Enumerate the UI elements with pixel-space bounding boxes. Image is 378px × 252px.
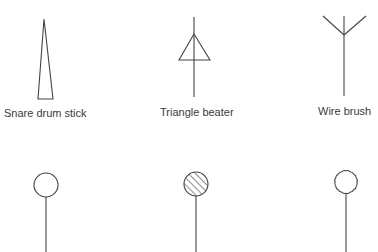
snare-drum-stick-label: Snare drum stick <box>4 107 87 120</box>
hollow-mallet-icon <box>34 173 58 252</box>
beater-symbols-diagram <box>0 0 378 252</box>
hatched-mallet-icon <box>182 170 210 252</box>
triangle-beater-label: Triangle beater <box>160 106 234 119</box>
scalloped-mallet-icon <box>335 171 358 252</box>
wire-brush-icon <box>323 16 366 96</box>
wire-brush-label: Wire brush <box>318 105 371 118</box>
snare-drum-stick-icon <box>38 19 53 99</box>
triangle-beater-icon <box>179 17 210 97</box>
